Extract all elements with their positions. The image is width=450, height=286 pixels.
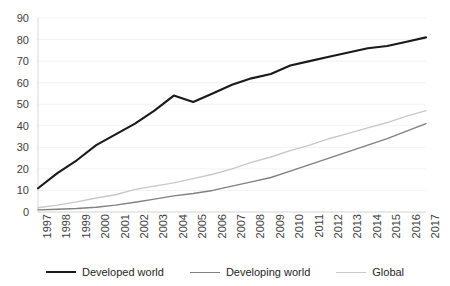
y-axis-tick-label: 40 [17,120,29,131]
gridlines [38,18,426,212]
x-axis-tick-label: 2016 [411,214,422,238]
x-axis-tick-label: 2010 [294,214,305,238]
x-axis-tick-label: 1999 [81,214,92,238]
plot-svg [38,18,426,212]
y-axis-tick-label: 0 [23,207,29,218]
legend-item-label: Global [372,266,404,278]
legend-item[interactable]: Global [336,266,404,278]
x-axis-tick-label: 2012 [333,214,344,238]
x-axis-tick-label: 2005 [197,214,208,238]
x-axis-tick-label: 2000 [100,214,111,238]
x-axis-tick-label: 2013 [352,214,363,238]
y-axis-tick-label: 90 [17,13,29,24]
x-axis-tick-label: 2011 [314,214,325,238]
legend-line-icon [190,272,220,273]
axis-lines [38,18,426,212]
legend-item[interactable]: Developed world [46,266,164,278]
y-axis-tick-label: 20 [17,163,29,174]
legend-item-label: Developing world [226,266,310,278]
x-axis-tick-label: 2002 [139,214,150,238]
x-axis-tick-label: 2006 [217,214,228,238]
legend-item-label: Developed world [82,266,164,278]
y-axis-tick-label: 60 [17,77,29,88]
x-axis-tick-label: 2014 [372,214,383,238]
x-axis-tick-label: 2007 [236,214,247,238]
y-axis-tick-label: 10 [17,185,29,196]
legend-line-icon [46,271,76,273]
y-axis-tick-label: 30 [17,142,29,153]
series-line-global [38,111,426,208]
series-line-developed-world [38,37,426,188]
y-axis-tick-label: 80 [17,34,29,45]
x-axis-tick-label: 2003 [158,214,169,238]
x-axis-tick-label: 2001 [120,214,131,238]
x-axis-tick-label: 1997 [42,214,53,238]
y-axis: 0102030405060708090 [0,18,34,212]
x-axis: 1997199819992000200120022003200420052006… [38,214,426,254]
x-axis-tick-label: 2008 [255,214,266,238]
x-axis-tick-label: 2009 [275,214,286,238]
legend-item[interactable]: Developing world [190,266,310,278]
line-chart: 0102030405060708090 19971998199920002001… [0,0,450,286]
chart-legend: Developed worldDeveloping worldGlobal [0,262,450,282]
x-axis-tick-label: 2017 [430,214,441,238]
series-lines [38,37,426,209]
x-axis-tick-label: 2004 [178,214,189,238]
plot-area [38,18,426,212]
x-axis-tick-label: 1998 [61,214,72,238]
legend-line-icon [336,272,366,273]
y-axis-tick-label: 70 [17,56,29,67]
y-axis-tick-label: 50 [17,99,29,110]
series-line-developing-world [38,124,426,210]
x-axis-tick-label: 2015 [391,214,402,238]
